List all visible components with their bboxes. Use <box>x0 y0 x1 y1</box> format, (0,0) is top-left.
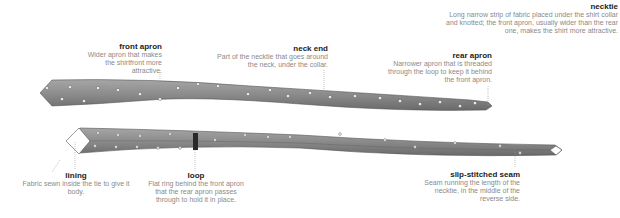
loop-shape <box>193 133 198 150</box>
necktie-back-view <box>66 128 562 156</box>
label-front-apron-title: front apron <box>80 42 162 51</box>
label-necktie: necktie Long narrow strip of fabric plac… <box>440 2 618 35</box>
label-front-apron-text: Wider apron that makes the shirtfront mo… <box>88 51 162 74</box>
label-front-apron: front apron Wider apron that makes the s… <box>80 42 162 75</box>
label-lining-title: lining <box>20 171 132 180</box>
label-slip-stitched-seam: slip-stitched seam Seam running the leng… <box>410 170 520 203</box>
label-lining: lining Fabric sewn inside the tie to giv… <box>20 171 132 196</box>
label-neck-end-text: Part of the necktie that goes around the… <box>217 53 328 68</box>
label-loop: loop Flat ring behind the front apron th… <box>146 171 246 204</box>
label-rear-apron: rear apron Narrower apron that is thread… <box>382 51 492 84</box>
label-necktie-title: necktie <box>440 2 618 11</box>
label-rear-apron-text: Narrower apron that is threaded through … <box>388 60 492 83</box>
label-loop-text: Flat ring behind the front apron that th… <box>148 180 244 203</box>
label-slip-stitched-seam-text: Seam running the length of the necktie, … <box>424 179 520 202</box>
label-neck-end: neck end Part of the necktie that goes a… <box>214 44 328 69</box>
label-neck-end-title: neck end <box>214 44 328 53</box>
label-rear-apron-title: rear apron <box>382 51 492 60</box>
label-lining-text: Fabric sewn inside the tie to give it bo… <box>23 180 130 195</box>
label-necktie-text: Long narrow strip of fabric placed under… <box>446 11 618 34</box>
label-loop-title: loop <box>146 171 246 180</box>
necktie-front-view <box>40 80 492 111</box>
label-slip-stitched-seam-title: slip-stitched seam <box>410 170 520 179</box>
